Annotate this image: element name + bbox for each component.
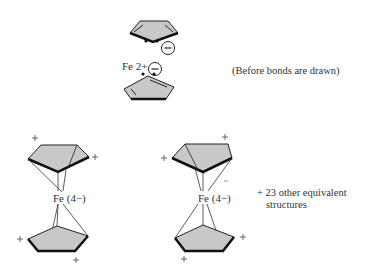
- fe-4minus-label-left: Fe (4−): [53, 192, 86, 204]
- right-cp-ring-lower: [175, 225, 234, 251]
- top-anion-charge-upper: [162, 42, 175, 55]
- left-cp-ring-lower: [28, 226, 88, 251]
- fe2plus-label: Fe 2+: [122, 60, 147, 72]
- equivalent-structures-line1: + 23 other equivalent: [257, 187, 347, 199]
- ferrocene-diagram: [0, 0, 365, 275]
- electron-dot: [144, 39, 147, 42]
- before-bonds-caption: (Before bonds are drawn): [232, 65, 340, 77]
- equivalent-structures-line2: structures: [266, 199, 307, 211]
- top-cp-ring-lower: [124, 72, 175, 99]
- electron-dot: [141, 72, 144, 75]
- top-cp-ring-upper: [130, 21, 178, 43]
- electron-dot: [155, 39, 158, 42]
- right-cp-ring-upper: [172, 144, 232, 172]
- fe-4minus-label-right: Fe (4−): [198, 192, 231, 204]
- electron-dot: [152, 72, 155, 75]
